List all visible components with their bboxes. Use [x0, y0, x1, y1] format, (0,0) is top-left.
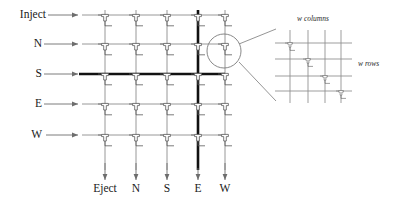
switch-inject-s[interactable] — [160, 14, 174, 25]
switch-inject-n[interactable] — [129, 14, 143, 25]
row-label-w: W — [0, 129, 42, 141]
switch-w-eject[interactable] — [98, 134, 112, 145]
row-label-n: N — [0, 38, 42, 50]
switch-e-w[interactable] — [218, 103, 232, 114]
switch-e-n[interactable] — [129, 103, 143, 114]
inset-col-lines — [290, 30, 341, 103]
inset-switch-2[interactable] — [303, 59, 313, 67]
row-label-inject: Inject — [0, 9, 46, 21]
switch-matrix — [98, 14, 232, 145]
inset-row-lines — [275, 43, 352, 91]
switch-w-w[interactable] — [218, 134, 232, 145]
inset-switch-4[interactable] — [336, 91, 346, 99]
figure-canvas: Inject N S E W Eject N S E W w columns w… — [0, 0, 406, 207]
inset-switch-1[interactable] — [285, 43, 295, 51]
col-label-w: W — [207, 183, 243, 195]
inset-columns-label: w columns — [281, 15, 345, 23]
main-grid — [44, 10, 232, 180]
inset-grid — [275, 30, 352, 103]
switch-n-eject[interactable] — [98, 43, 112, 54]
switch-e-e[interactable] — [191, 103, 205, 114]
switch-n-n[interactable] — [129, 43, 143, 54]
output-arrows — [105, 163, 225, 180]
switch-n-s[interactable] — [160, 43, 174, 54]
switch-n-e[interactable] — [191, 43, 205, 54]
switch-w-e[interactable] — [191, 134, 205, 145]
magnifier-circle — [207, 34, 241, 68]
inset-rows-label: w rows — [358, 60, 402, 68]
switch-w-s[interactable] — [160, 134, 174, 145]
inset-switch-3[interactable] — [320, 76, 330, 84]
callout-line-bottom — [239, 62, 276, 101]
magnifier-callout — [207, 29, 276, 101]
switch-n-w-highlighted[interactable] — [218, 43, 232, 54]
switch-inject-w[interactable] — [218, 14, 232, 25]
switch-inject-eject[interactable] — [98, 14, 112, 25]
row-label-e: E — [0, 98, 42, 110]
callout-line-top — [239, 29, 276, 44]
crossbar-diagram-svg — [0, 0, 406, 207]
switch-inject-e[interactable] — [191, 14, 205, 25]
input-arrows — [44, 15, 78, 135]
switch-e-eject[interactable] — [98, 103, 112, 114]
col-lines — [105, 10, 225, 170]
inset-switches — [285, 43, 346, 99]
row-label-s: S — [0, 68, 42, 80]
switch-w-n[interactable] — [129, 134, 143, 145]
switch-e-s[interactable] — [160, 103, 174, 114]
